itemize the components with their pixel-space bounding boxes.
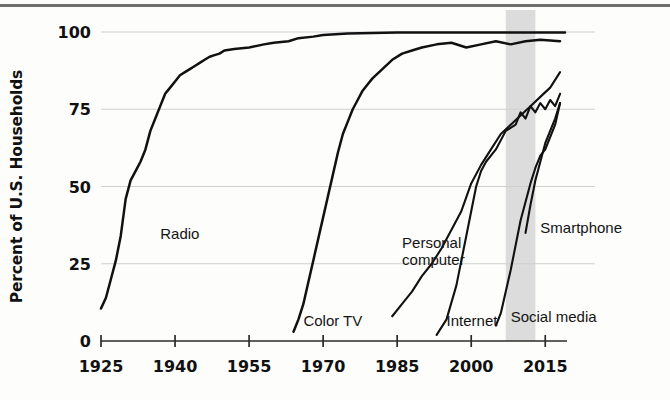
series-annotation-labels: RadioColor TVPersonalcomputerInternetSoc… [160,219,622,329]
x-tick-label-2000: 2000 [449,357,494,376]
series-label-radio: Radio [160,225,199,242]
y-tick-label-0: 0 [80,332,91,351]
data-series-lines [101,33,565,335]
y-axis-title-text: Percent of U.S. Households [8,70,26,303]
x-tick-label-1985: 1985 [375,357,420,376]
series-label-internet: Internet [447,312,499,329]
y-tick-label-25: 25 [69,255,91,274]
series-label-social-media: Social media [511,308,598,325]
y-axis-title: Percent of U.S. Households [8,70,26,303]
x-tick-label-1955: 1955 [227,357,272,376]
shaded-band-group [506,10,536,341]
line-chart-plot: 0255075100 1925194019551970198520002015 … [0,0,670,400]
shaded-period-band [506,10,536,341]
x-tick-label-1940: 1940 [153,357,198,376]
y-tick-label-50: 50 [69,178,91,197]
y-tick-label-75: 75 [69,100,91,119]
y-tick-label-100: 100 [58,23,91,42]
series-label-color-tv: Color TV [303,312,362,329]
series-label-personal-computer: computer [402,251,465,268]
x-tick-label-1970: 1970 [301,357,346,376]
x-axis-tick-labels: 1925194019551970198520002015 [79,357,568,376]
series-label-smartphone: Smartphone [540,219,622,236]
axes-group [101,335,567,347]
x-tick-label-1925: 1925 [79,357,124,376]
chart-figure: 0255075100 1925194019551970198520002015 … [0,0,670,400]
y-axis-tick-labels: 0255075100 [58,23,91,351]
series-line-internet [437,94,560,335]
series-label-personal-computer: Personal [402,234,461,251]
x-tick-label-2015: 2015 [523,357,568,376]
